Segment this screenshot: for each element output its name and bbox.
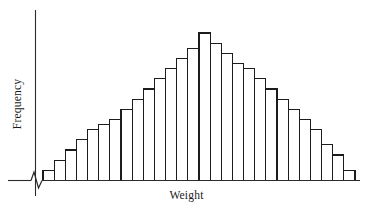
histogram-bar: [221, 53, 232, 180]
axis-break-zigzag-icon: [31, 172, 42, 188]
histogram-bar: [43, 170, 54, 180]
y-axis-title-text: Frequency: [11, 79, 23, 129]
histogram-bar: [288, 109, 299, 180]
histogram-bar: [65, 150, 76, 181]
histogram-bar: [322, 145, 333, 181]
histogram-bar: [121, 109, 132, 180]
histogram-bar: [88, 130, 99, 181]
histogram-bar: [76, 140, 87, 181]
histogram-bars: [43, 33, 355, 181]
histogram-bar: [232, 64, 243, 181]
histogram-bar: [333, 155, 344, 180]
histogram-bar: [199, 33, 210, 181]
histogram-bar: [266, 89, 277, 181]
histogram-bar: [177, 58, 188, 180]
y-axis-title: Frequency: [8, 56, 26, 152]
histogram-plot: [0, 0, 367, 215]
histogram-bar: [143, 89, 154, 181]
histogram-bar: [310, 130, 321, 181]
histogram-bar: [154, 79, 165, 181]
x-axis-title-text: Weight: [169, 189, 203, 201]
histogram-figure: Frequency Weight: [0, 0, 367, 215]
histogram-bar: [132, 99, 143, 180]
histogram-bar: [166, 69, 177, 181]
x-axis-title: Weight: [0, 189, 367, 201]
histogram-bar: [255, 79, 266, 181]
histogram-bar: [54, 160, 65, 180]
histogram-bar: [299, 119, 310, 180]
histogram-bar: [99, 125, 110, 181]
histogram-bar: [110, 119, 121, 180]
histogram-bar: [244, 69, 255, 181]
histogram-bar: [188, 48, 199, 180]
histogram-bar: [344, 170, 355, 180]
histogram-bar: [210, 43, 221, 180]
histogram-bar: [277, 99, 288, 180]
